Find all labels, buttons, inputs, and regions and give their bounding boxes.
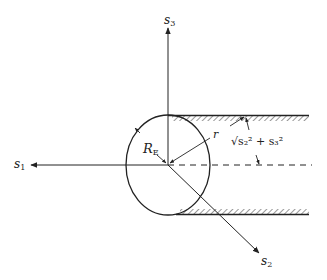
s3-axis-label: s3 bbox=[164, 14, 175, 28]
s1-axis-label: s1 bbox=[14, 158, 25, 172]
sqrt-pointer-down bbox=[256, 155, 259, 164]
r-vector-to-center bbox=[170, 138, 210, 163]
earth-radius-label: RE bbox=[143, 142, 159, 157]
r-label: r bbox=[213, 129, 218, 140]
upper-wall-hatch bbox=[172, 116, 309, 121]
cylinder-radius-label: √s₂² + s₃² bbox=[231, 136, 283, 147]
diagram: s3 s1 s2 RE r √s₂² + s₃² bbox=[0, 0, 327, 280]
s2-axis-label: s2 bbox=[261, 255, 272, 269]
lower-wall-hatch bbox=[180, 209, 309, 214]
